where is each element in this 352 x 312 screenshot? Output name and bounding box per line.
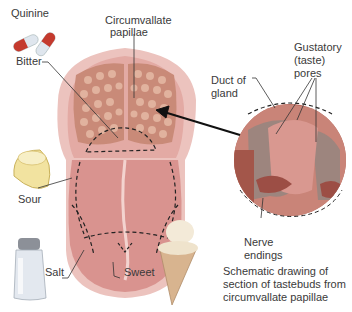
salt-shaker-icon xyxy=(14,238,46,300)
pill-capsules-icon xyxy=(12,31,57,58)
label-nerve-2: endings xyxy=(244,249,283,261)
label-duct-2: gland xyxy=(211,87,238,99)
label-salt: Salt xyxy=(45,266,64,278)
label-sweet: Sweet xyxy=(124,266,155,278)
label-duct-1: Duct of xyxy=(211,74,246,86)
label-circumvallate-2: papillae xyxy=(110,26,148,38)
label-sour: Sour xyxy=(18,193,41,205)
caption-line-1: Schematic drawing of xyxy=(223,265,346,278)
label-quinine: Quinine xyxy=(11,7,49,19)
label-nerve-1: Nerve xyxy=(244,236,273,248)
lemon-icon xyxy=(14,150,50,188)
caption-line-3: circumvallate papillae xyxy=(223,291,346,304)
label-gustatory-2: (taste) xyxy=(294,54,325,66)
label-circumvallate-1: Circumvallate xyxy=(105,14,172,26)
figure-caption: Schematic drawing of section of tastebud… xyxy=(223,265,346,304)
label-gustatory-3: pores xyxy=(294,67,322,79)
tastebud-section-inset xyxy=(230,100,350,220)
label-bitter: Bitter xyxy=(16,55,42,67)
label-gustatory-1: Gustatory xyxy=(294,41,342,53)
caption-line-2: section of tastebuds from xyxy=(223,278,346,291)
